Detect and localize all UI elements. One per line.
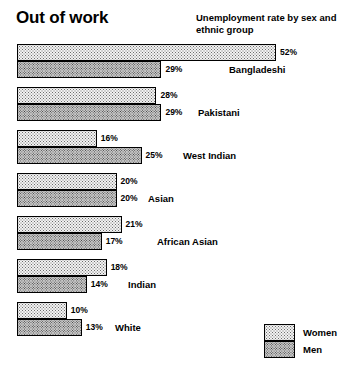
- chart-legend: Women Men: [264, 324, 348, 364]
- bar-value-label: 52%: [280, 47, 297, 58]
- chart-container: Out of work Unemployment rate by sex and…: [0, 0, 351, 372]
- category-label: Indian: [128, 279, 156, 291]
- legend-label-women: Women: [303, 327, 337, 339]
- bar-women: [17, 87, 156, 104]
- bar-men: [17, 190, 117, 207]
- legend-swatch-women: [264, 324, 295, 341]
- category-label: Asian: [148, 193, 174, 205]
- bar-value-label: 21%: [126, 219, 143, 230]
- bar-value-label: 20%: [121, 176, 138, 187]
- bar-group: 52%29%Bangladeshi: [0, 44, 351, 80]
- bar-value-label: 18%: [111, 262, 128, 273]
- bar-group: 18%14%Indian: [0, 259, 351, 295]
- bar-women: [17, 302, 67, 319]
- bar-men: [17, 276, 87, 293]
- bar-women: [17, 173, 117, 190]
- bar-men: [17, 104, 161, 121]
- bar-value-label: 28%: [160, 90, 177, 101]
- bar-women: [17, 259, 107, 276]
- bar-men: [17, 147, 142, 164]
- category-label: West Indian: [183, 150, 236, 162]
- legend-label-men: Men: [303, 344, 322, 356]
- bar-women: [17, 130, 97, 147]
- legend-swatch-men: [264, 341, 295, 358]
- bar-value-label: 25%: [146, 150, 163, 161]
- category-label: Bangladeshi: [229, 64, 286, 76]
- bar-group: 20%20%Asian: [0, 173, 351, 209]
- category-label: African Asian: [157, 236, 218, 248]
- bar-men: [17, 233, 102, 250]
- bar-value-label: 20%: [121, 193, 138, 204]
- bar-value-label: 16%: [101, 133, 118, 144]
- category-label: White: [115, 322, 141, 334]
- bar-group: 28%29%Pakistani: [0, 87, 351, 123]
- bar-women: [17, 44, 276, 61]
- bar-group: 21%17%African Asian: [0, 216, 351, 252]
- bar-men: [17, 61, 161, 78]
- bar-value-label: 10%: [71, 305, 88, 316]
- bar-value-label: 14%: [91, 279, 108, 290]
- bar-value-label: 29%: [165, 64, 182, 75]
- bar-women: [17, 216, 122, 233]
- bar-value-label: 17%: [106, 236, 123, 247]
- bar-group: 16%25%West Indian: [0, 130, 351, 166]
- bar-value-label: 29%: [165, 107, 182, 118]
- category-label: Pakistani: [198, 107, 240, 119]
- plot-area: 52%29%Bangladeshi28%29%Pakistani16%25%We…: [0, 44, 351, 344]
- bar-value-label: 13%: [86, 322, 103, 333]
- page-title: Out of work: [16, 8, 108, 28]
- bar-men: [17, 319, 82, 336]
- chart-subtitle: Unemployment rate by sex and ethnic grou…: [196, 12, 346, 35]
